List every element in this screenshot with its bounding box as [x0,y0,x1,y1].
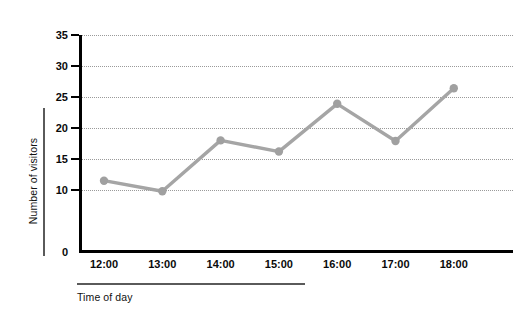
y-tick-label-30: 30 [16,60,68,72]
data-series-visitors [82,35,513,252]
x-tick-label-1600: 16:00 [307,258,367,270]
y-tick-15 [71,158,79,160]
y-tick-label-10: 10 [16,184,68,196]
data-point-1400 [216,136,224,144]
data-point-1700 [391,137,399,145]
y-tick-label-0: 0 [16,246,68,258]
data-point-1300 [158,187,166,195]
x-tick-label-1700: 17:00 [366,258,426,270]
y-axis-tick-labels: 0101520253035 [12,0,68,317]
x-tick-label-1200: 12:00 [74,258,134,270]
y-tick-30 [71,65,79,67]
plot-area [82,35,513,252]
x-axis-title-rule [77,283,305,285]
data-point-1600 [333,100,341,108]
y-tick-35 [71,34,79,36]
data-point-1800 [450,84,458,92]
line-chart-figure: Number of visitors 0101520253035 12:0013… [0,0,528,317]
y-tick-10 [71,189,79,191]
y-tick-label-15: 15 [16,153,68,165]
data-point-1500 [275,147,283,155]
data-point-1200 [100,177,108,185]
y-tick-label-25: 25 [16,91,68,103]
x-tick-label-1300: 13:00 [132,258,192,270]
x-axis-title: Time of day [77,291,133,303]
y-tick-label-20: 20 [16,122,68,134]
y-tick-25 [71,96,79,98]
y-tick-20 [71,127,79,129]
y-tick-label-35: 35 [16,29,68,41]
series-line [104,88,454,191]
x-tick-label-1800: 18:00 [424,258,484,270]
x-tick-label-1500: 15:00 [249,258,309,270]
x-tick-label-1400: 14:00 [191,258,251,270]
